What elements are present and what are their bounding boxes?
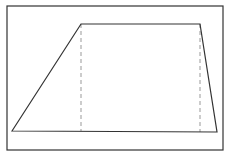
diagram-frame — [7, 6, 223, 150]
trapezoid-shape — [12, 24, 217, 132]
trapezoid-diagram — [0, 0, 228, 154]
